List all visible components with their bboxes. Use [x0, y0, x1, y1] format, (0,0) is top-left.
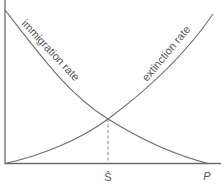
island-biogeography-diagram: immigration rate extinction rate Ŝ P: [0, 0, 224, 188]
s-hat-label: Ŝ: [104, 171, 111, 183]
immigration-rate-label: immigration rate: [20, 17, 83, 83]
extinction-rate-label: extinction rate: [139, 23, 192, 83]
p-label: P: [203, 170, 211, 182]
